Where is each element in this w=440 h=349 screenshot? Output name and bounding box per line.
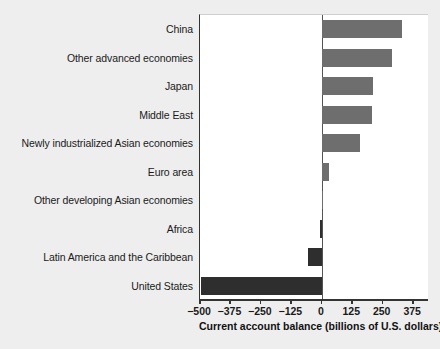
bar	[201, 277, 322, 295]
x-tick-mark	[412, 299, 414, 304]
category-label: Euro area	[148, 166, 193, 178]
x-tick-mark	[290, 299, 292, 304]
x-tick-mark	[260, 299, 262, 304]
category-label: China	[166, 23, 193, 35]
bar	[308, 248, 321, 266]
x-tick-label: −375	[218, 305, 242, 317]
category-label: Africa	[167, 223, 193, 235]
x-tick-label: −125	[279, 305, 303, 317]
chart-row: Other developing Asian economies	[200, 186, 428, 215]
x-tick-label: −250	[248, 305, 272, 317]
x-tick-mark	[199, 299, 201, 304]
bar	[322, 134, 360, 152]
x-tick-mark	[229, 299, 231, 304]
bar	[322, 163, 329, 181]
chart-row: Latin America and the Caribbean	[200, 243, 428, 272]
category-label: Newly industrialized Asian economies	[22, 137, 194, 149]
x-tick-label: 0	[318, 305, 324, 317]
category-label: Latin America and the Caribbean	[43, 251, 193, 263]
category-label: Other developing Asian economies	[34, 194, 193, 206]
x-tick-mark	[351, 299, 353, 304]
chart-row: Africa	[200, 215, 428, 244]
x-tick-mark	[321, 299, 323, 304]
bar	[322, 191, 324, 209]
chart-row: Euro area	[200, 158, 428, 187]
x-tick-label: −500	[187, 305, 211, 317]
bar	[322, 20, 402, 38]
x-tick-mark	[382, 299, 384, 304]
bar	[322, 77, 373, 95]
category-label: Middle East	[139, 109, 193, 121]
x-axis-title: Current account balance (billions of U.S…	[199, 320, 428, 332]
chart-row: Other advanced economies	[200, 44, 428, 73]
chart-figure: ChinaOther advanced economiesJapanMiddle…	[0, 0, 440, 349]
x-tick-label: 125	[342, 305, 360, 317]
x-tick-label: 375	[403, 305, 421, 317]
bar	[322, 106, 373, 124]
chart-row: United States	[200, 272, 428, 301]
chart-row: Middle East	[200, 101, 428, 130]
x-axis	[199, 299, 428, 301]
plot-area: ChinaOther advanced economiesJapanMiddle…	[199, 14, 428, 299]
bar	[320, 220, 322, 238]
category-label: United States	[131, 280, 193, 292]
category-label: Japan	[165, 80, 193, 92]
x-tick-label: 250	[373, 305, 391, 317]
bar	[322, 49, 392, 67]
category-label: Other advanced economies	[67, 52, 193, 64]
chart-row: Newly industrialized Asian economies	[200, 129, 428, 158]
chart-row: Japan	[200, 72, 428, 101]
chart-row: China	[200, 15, 428, 44]
